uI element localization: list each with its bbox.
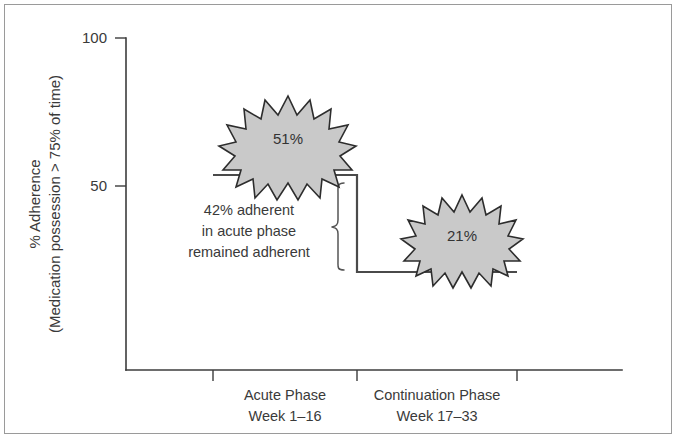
y-tick-label-50: 50 xyxy=(90,177,107,194)
x-category-labels: Acute Phase Week 1–16 Continuation Phase… xyxy=(244,387,500,424)
data-marker-acute-phase: 51% xyxy=(219,96,356,200)
starburst-51-label: 51% xyxy=(273,130,303,147)
retention-annotation: 42% adherent in acute phase remained adh… xyxy=(188,202,310,260)
y-axis-ticks xyxy=(115,38,126,186)
y-axis-title-group: % Adherence (Medication possession > 75%… xyxy=(26,75,63,333)
note-line-2: in acute phase xyxy=(202,223,296,239)
category-label-acute-weeks: Week 1–16 xyxy=(248,408,321,424)
category-label-acute-name: Acute Phase xyxy=(244,387,326,403)
y-axis-title-line1: % Adherence xyxy=(26,159,43,248)
note-line-1: 42% adherent xyxy=(204,202,294,218)
chart-canvas: 100 50 % Adherence (Medication possessio… xyxy=(0,0,678,440)
axes-group xyxy=(126,38,622,370)
category-label-continuation-name: Continuation Phase xyxy=(374,387,501,403)
x-axis-ticks xyxy=(213,370,517,381)
y-tick-label-100: 100 xyxy=(82,29,107,46)
figure-container: 100 50 % Adherence (Medication possessio… xyxy=(0,0,678,440)
y-axis-title-line2: (Medication possession > 75% of time) xyxy=(46,75,63,333)
retention-brace-group xyxy=(332,183,344,270)
curly-brace-icon xyxy=(332,183,344,270)
starburst-51-shape xyxy=(219,96,356,200)
starburst-21-label: 21% xyxy=(447,227,477,244)
category-label-continuation-weeks: Week 17–33 xyxy=(396,408,477,424)
note-line-3: remained adherent xyxy=(188,244,310,260)
data-marker-continuation-phase: 21% xyxy=(401,195,523,288)
